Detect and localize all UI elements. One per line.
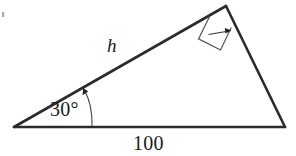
edge-artifact-mark bbox=[2, 12, 4, 17]
right-side-segment bbox=[226, 6, 285, 127]
geometry-figure: h 30° 100 bbox=[0, 0, 296, 156]
base-length-label: 100 bbox=[133, 133, 164, 153]
angle-arc-arrowhead-icon bbox=[83, 88, 89, 95]
hypotenuse-segment bbox=[14, 6, 226, 127]
hypotenuse-label: h bbox=[107, 36, 117, 55]
angle-label: 30° bbox=[50, 99, 79, 119]
angle-arc-icon bbox=[85, 91, 93, 127]
